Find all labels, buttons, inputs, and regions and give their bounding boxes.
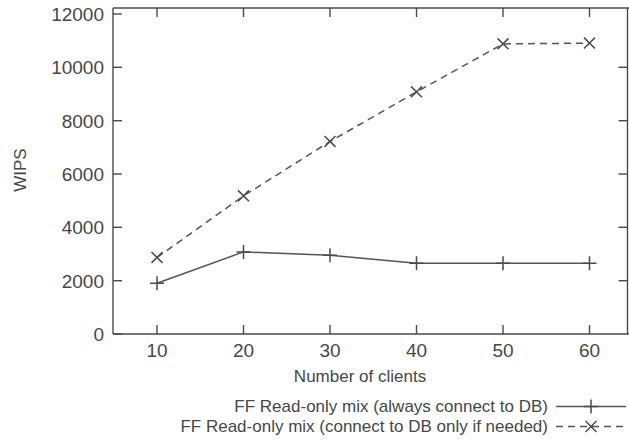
cross-marker-20	[238, 190, 249, 201]
x-axis-title: Number of clients	[294, 367, 426, 386]
x-tick-label-10: 10	[146, 340, 167, 361]
series-connect-if-needed	[152, 38, 596, 263]
legend-sample-connect-if-needed	[556, 421, 626, 432]
y-tick-label-10000: 10000	[51, 57, 104, 78]
x-tick-label-20: 20	[233, 340, 254, 361]
x-tick-label-60: 60	[579, 340, 600, 361]
plus-marker-40	[410, 256, 424, 270]
legend-label-always-connect: FF Read-only mix (always connect to DB)	[234, 397, 548, 416]
y-tick-label-6000: 6000	[62, 164, 104, 185]
series-2-markers	[152, 38, 596, 263]
x-tick-labels: 10 20 30 40 50 60	[146, 340, 600, 361]
cross-marker-10	[152, 252, 163, 263]
x-tick-label-30: 30	[319, 340, 340, 361]
plot-frame	[113, 8, 629, 334]
chart-canvas: 0 2000 4000 6000 8000 10000 12000 10 20 …	[0, 0, 629, 440]
plus-marker-20	[237, 245, 251, 259]
y-axis-ticks-right	[619, 67, 628, 280]
y-tick-labels: 0 2000 4000 6000 8000 10000 12000	[51, 4, 104, 345]
y-tick-label-12000: 12000	[51, 4, 104, 25]
legend-label-connect-if-needed: FF Read-only mix (connect to DB only if …	[180, 417, 548, 436]
series-always-connect	[150, 245, 597, 290]
series-2-line	[157, 43, 590, 257]
plus-marker-50	[496, 256, 510, 270]
x-tick-label-40: 40	[406, 340, 427, 361]
y-axis-title: WIPS	[11, 148, 30, 191]
series-1-line	[157, 252, 590, 283]
y-axis-ticks	[113, 14, 122, 334]
y-tick-label-8000: 8000	[62, 111, 104, 132]
plus-marker-30	[323, 248, 337, 262]
cross-marker-40	[411, 86, 422, 97]
plus-marker-10	[150, 276, 164, 290]
y-tick-label-0: 0	[93, 324, 104, 345]
x-tick-label-50: 50	[492, 340, 513, 361]
y-tick-label-4000: 4000	[62, 217, 104, 238]
series-1-markers	[150, 245, 597, 290]
x-axis-ticks-top	[157, 8, 590, 17]
cross-marker-30	[325, 136, 336, 147]
x-axis-ticks	[157, 325, 590, 334]
y-tick-label-2000: 2000	[62, 271, 104, 292]
chart-legend: FF Read-only mix (always connect to DB) …	[180, 397, 626, 436]
line-chart: 0 2000 4000 6000 8000 10000 12000 10 20 …	[0, 0, 629, 440]
plus-marker-60	[583, 256, 597, 270]
legend-plus-marker	[584, 400, 598, 414]
legend-sample-always-connect	[556, 400, 626, 414]
cross-marker-60	[584, 38, 595, 49]
